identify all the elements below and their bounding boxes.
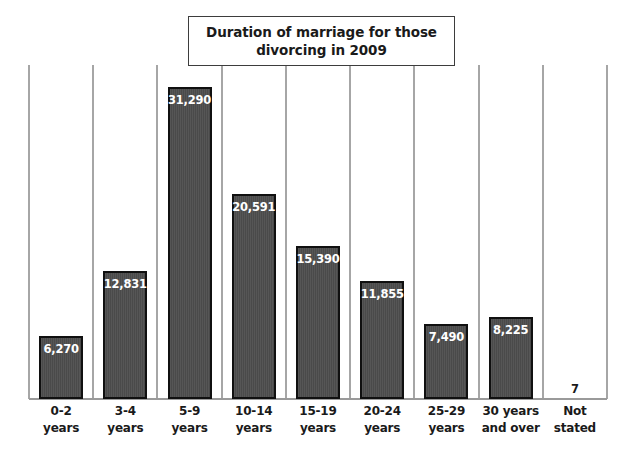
x-axis-label-line: Not: [543, 403, 607, 420]
chart-title-line-2: divorcing in 2009: [256, 41, 386, 59]
x-axis-label-line: years: [222, 420, 286, 437]
x-axis-label-line: and over: [479, 420, 543, 437]
bar-value-label: 7,490: [429, 331, 464, 344]
x-axis-label: 20-24years: [350, 403, 414, 437]
bar[interactable]: 6,270: [39, 336, 83, 399]
bar[interactable]: 31,290: [168, 87, 212, 399]
x-axis-label: Notstated: [543, 403, 607, 437]
x-axis-label-line: years: [286, 420, 350, 437]
bar[interactable]: 7,490: [424, 324, 468, 399]
x-axis-label: 25-29years: [414, 403, 478, 437]
x-axis-label-line: 25-29: [414, 403, 478, 420]
bar-value-label: 6,270: [43, 343, 78, 356]
bar[interactable]: 15,390: [296, 246, 340, 399]
x-axis-label-line: years: [29, 420, 93, 437]
bar[interactable]: 8,225: [489, 317, 533, 399]
x-axis-label-line: 3-4: [93, 403, 157, 420]
x-axis-label-line: years: [157, 420, 221, 437]
bar-slot: 20,591: [222, 65, 286, 399]
bar-value-label: 15,390: [296, 253, 339, 266]
x-axis-labels: 0-2years3-4years5-9years10-14years15-19y…: [29, 403, 607, 451]
bar[interactable]: 12,831: [103, 271, 147, 399]
bar-slot: 15,390: [286, 65, 350, 399]
bar-value-label: 7: [571, 383, 579, 396]
bar-slot: 7: [543, 65, 607, 399]
bar[interactable]: 7: [553, 381, 597, 399]
x-axis-label-line: 20-24: [350, 403, 414, 420]
x-axis-label-line: 10-14: [222, 403, 286, 420]
bar[interactable]: 20,591: [232, 194, 276, 399]
x-axis-label-line: 0-2: [29, 403, 93, 420]
bar-chart: Duration of marriage for those divorcing…: [0, 0, 638, 458]
bar-value-label: 11,855: [361, 288, 404, 301]
x-axis-label-line: 5-9: [157, 403, 221, 420]
bar[interactable]: 11,855: [360, 281, 404, 399]
bar-slot: 12,831: [93, 65, 157, 399]
x-axis-label: 30 yearsand over: [479, 403, 543, 437]
bar-value-label: 20,591: [232, 201, 275, 214]
x-axis-label-line: years: [350, 420, 414, 437]
plot-area: 6,27012,83131,29020,59115,39011,8557,490…: [29, 65, 607, 399]
bar-slot: 31,290: [157, 65, 221, 399]
bar-value-label: 8,225: [493, 324, 528, 337]
bar-slot: 6,270: [29, 65, 93, 399]
x-axis-label: 3-4years: [93, 403, 157, 437]
x-axis-label: 5-9years: [157, 403, 221, 437]
bar-slot: 11,855: [350, 65, 414, 399]
chart-title-line-1: Duration of marriage for those: [206, 23, 437, 41]
chart-title-box: Duration of marriage for those divorcing…: [188, 16, 455, 66]
x-axis-label-line: 30 years: [479, 403, 543, 420]
x-axis-label: 10-14years: [222, 403, 286, 437]
x-axis-label: 15-19years: [286, 403, 350, 437]
x-axis-label-line: stated: [543, 420, 607, 437]
x-axis-label-line: 15-19: [286, 403, 350, 420]
x-axis-label: 0-2years: [29, 403, 93, 437]
bar-slot: 8,225: [479, 65, 543, 399]
bar-slot: 7,490: [414, 65, 478, 399]
bar-value-label: 31,290: [168, 94, 211, 107]
x-axis-label-line: years: [93, 420, 157, 437]
x-axis-label-line: years: [414, 420, 478, 437]
bar-value-label: 12,831: [104, 278, 147, 291]
